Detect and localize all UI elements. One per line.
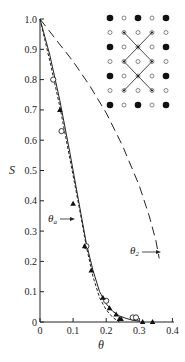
lattice-line (124, 47, 138, 62)
y-ticks (40, 19, 44, 322)
chart: 00.10.20.30.40.50.60.70.80.91.0 00.10.20… (0, 0, 185, 362)
y-tick-label: 0.3 (25, 226, 38, 237)
lattice-atom-small (108, 60, 112, 64)
lattice-vertex (151, 89, 153, 91)
open-circle-marker (59, 129, 64, 134)
lattice-atom-small (108, 31, 112, 35)
lattice-line (138, 47, 152, 62)
lattice-atom-small (136, 89, 140, 93)
lattice-atom-small (122, 45, 126, 49)
annotation-theta-2: θ2 (130, 244, 161, 258)
y-axis-title: S (9, 163, 15, 177)
x-tick-labels: 00.10.20.30.4 (38, 325, 179, 336)
lattice-atom-small (164, 89, 168, 93)
y-tick-label: 0.1 (25, 286, 38, 297)
lattice-atom-small (150, 16, 154, 20)
y-tick-label: 0.4 (25, 195, 38, 206)
y-tick-label: 0 (32, 317, 37, 328)
svg-text:θa: θa (48, 212, 57, 226)
x-tick-label: 0.3 (133, 325, 146, 336)
x-tick-label: 0.2 (100, 325, 113, 336)
lattice-atom-large (135, 15, 142, 22)
theta-2-subscript: 2 (135, 250, 139, 258)
y-tick-label: 0.6 (25, 135, 38, 146)
lattice-atom-large (107, 44, 114, 51)
lattice-atom-large (163, 44, 170, 51)
inset-lattice (107, 15, 170, 109)
open-circle-marker (51, 77, 56, 82)
plot-lines (40, 19, 159, 322)
filled-triangle-marker (100, 295, 106, 300)
lattice-atom-large (163, 73, 170, 80)
lattice-atom-large (163, 102, 170, 109)
lattice-line (138, 33, 152, 48)
lattice-atom-small (122, 16, 126, 20)
x-tick-label: 0.4 (166, 325, 179, 336)
x-axis-title: θ (98, 338, 104, 352)
lattice-atom-small (108, 89, 112, 93)
lattice-atom-large (163, 15, 170, 22)
lattice-atom-small (122, 103, 126, 107)
axes (40, 19, 174, 322)
markers (51, 77, 156, 324)
lattice-atom-small (136, 60, 140, 64)
y-tick-label: 0.7 (25, 104, 38, 115)
y-tick-label: 0.2 (25, 256, 38, 267)
arrow-head-icon (70, 217, 75, 221)
x-tick-label: 0 (38, 325, 43, 336)
lattice-atom-small (150, 103, 154, 107)
lattice-atom-small (136, 31, 140, 35)
y-tick-labels: 00.10.20.30.40.50.60.70.80.91.0 (25, 14, 38, 328)
lattice-vertex (151, 60, 153, 62)
theta-a-subscript: a (53, 218, 57, 226)
lattice-line (124, 33, 138, 48)
lattice-vertex (123, 60, 125, 62)
open-circle-marker (133, 315, 138, 320)
lattice-atom-small (164, 31, 168, 35)
lattice-atom-large (107, 15, 114, 22)
y-tick-label: 1.0 (25, 14, 38, 25)
solid-curve (40, 19, 139, 321)
annotation-theta-a: θa (48, 212, 75, 226)
lattice-vertex (137, 46, 139, 48)
lattice-vertex (137, 75, 139, 77)
arrow-head-icon (156, 250, 161, 254)
lattice-line (138, 62, 152, 77)
svg-text:θ2: θ2 (130, 244, 139, 258)
lattice-vertex (151, 31, 153, 33)
lattice-atom-large (107, 73, 114, 80)
lattice-atom-large (107, 102, 114, 109)
lattice-vertex (123, 89, 125, 91)
lattice-vertex (123, 31, 125, 33)
lattice-atom-small (122, 74, 126, 78)
y-tick-label: 0.5 (25, 165, 38, 176)
long-dash-curve-2- (40, 19, 159, 258)
lattice-line (124, 76, 138, 91)
lattice-atom-small (150, 45, 154, 49)
y-tick-label: 0.9 (25, 44, 38, 55)
filled-triangle-marker (70, 201, 76, 206)
lattice-line (138, 76, 152, 91)
lattice-line (124, 62, 138, 77)
lattice-atom-large (135, 102, 142, 109)
lattice-atom-small (164, 60, 168, 64)
y-tick-label: 0.8 (25, 74, 38, 85)
x-tick-label: 0.1 (67, 325, 80, 336)
lattice-atom-small (150, 74, 154, 78)
